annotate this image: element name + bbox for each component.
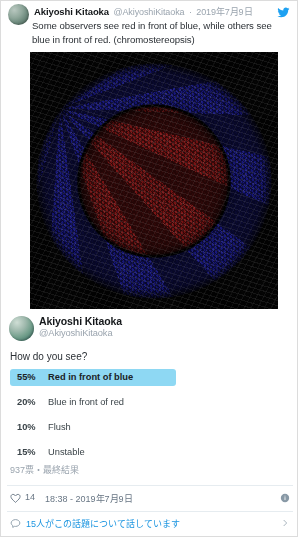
poll-option-percent: 15% xyxy=(17,447,36,457)
reply-bubble-icon xyxy=(10,518,21,529)
poll-author-header: Akiyoshi Kitaoka @AkiyoshiKitaoka xyxy=(1,314,298,348)
sparkle-texture xyxy=(30,52,278,309)
author-handle[interactable]: @AkiyoshiKitaoka xyxy=(113,7,184,17)
avatar[interactable] xyxy=(8,4,29,25)
poll-author-handle[interactable]: @AkiyoshiKitaoka xyxy=(39,328,112,338)
poll-author-display-name[interactable]: Akiyoshi Kitaoka xyxy=(39,315,122,327)
author-display-name[interactable]: Akiyoshi Kitaoka xyxy=(34,6,109,17)
tweet-screenshot: Akiyoshi Kitaoka @AkiyoshiKitaoka · 2019… xyxy=(0,0,298,537)
heart-icon[interactable] xyxy=(10,493,21,504)
tweet-date[interactable]: 2019年7月9日 xyxy=(196,7,252,17)
poll-option-percent: 20% xyxy=(17,397,36,407)
poll-option-label: Unstable xyxy=(48,447,85,457)
poll-option-label: Blue in front of red xyxy=(48,397,124,407)
poll-vote-count: 937票・最終結果 xyxy=(10,463,79,476)
twitter-bird-icon[interactable] xyxy=(276,6,291,19)
tweet-body-text: Some observers see red in front of blue,… xyxy=(32,19,278,47)
chromostereopsis-image[interactable] xyxy=(30,52,278,309)
like-count: 14 xyxy=(25,492,35,502)
poll-option[interactable]: 10% Flush xyxy=(10,419,290,436)
poll-option-label: Flush xyxy=(48,422,71,432)
meta-separator: · xyxy=(189,7,192,17)
poll-option-percent: 55% xyxy=(17,372,36,382)
divider xyxy=(7,485,293,486)
tweet-stats-row: 14 18:38 - 2019年7月9日 xyxy=(1,487,298,511)
author-row: Akiyoshi Kitaoka @AkiyoshiKitaoka · 2019… xyxy=(34,4,252,18)
poll-question: How do you see? xyxy=(10,351,87,362)
tweet-header: Akiyoshi Kitaoka @AkiyoshiKitaoka · 2019… xyxy=(1,1,298,19)
poll-option[interactable]: 20% Blue in front of red xyxy=(10,394,290,411)
poll-option-label: Red in front of blue xyxy=(48,372,133,382)
poll-option[interactable]: 55% Red in front of blue xyxy=(10,369,290,386)
tweet-timestamp: 18:38 - 2019年7月9日 xyxy=(45,492,133,505)
conversation-footer[interactable]: 15人がこの話題について話しています xyxy=(1,512,298,537)
info-icon[interactable] xyxy=(280,493,290,503)
poll-avatar[interactable] xyxy=(9,316,34,341)
poll-option-percent: 10% xyxy=(17,422,36,432)
poll-options-list: 55% Red in front of blue 20% Blue in fro… xyxy=(10,369,290,469)
chevron-right-icon[interactable] xyxy=(281,517,289,529)
conversation-link[interactable]: 15人がこの話題について話しています xyxy=(26,517,180,530)
poll-option[interactable]: 15% Unstable xyxy=(10,444,290,461)
